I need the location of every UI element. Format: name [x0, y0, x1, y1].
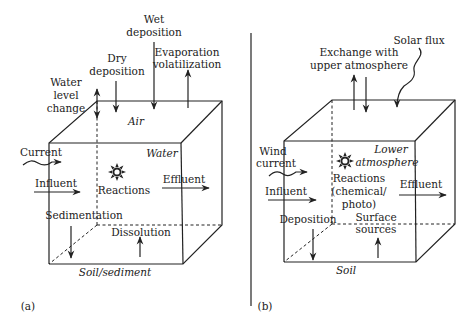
label-sedimentation: Sedimentation: [45, 209, 123, 221]
label-influent: Influent: [35, 177, 78, 189]
label-influent-b: Influent: [265, 185, 308, 197]
label-water: Water: [146, 147, 179, 159]
current-wavy-arrow: [23, 161, 61, 165]
label-water-level: Water: [50, 76, 83, 88]
sun-burst-icon: [336, 152, 354, 170]
label-current: Current: [20, 146, 63, 158]
label-volatilization: volatilization: [152, 58, 222, 70]
label-dry-deposition-2: deposition: [89, 65, 145, 77]
diagram-canvas: Wet deposition Dry deposition Evaporatio…: [0, 0, 474, 331]
label-evaporation: Evaporation: [155, 46, 220, 58]
label-wind: Wind: [259, 145, 287, 157]
label-reactions-b: Reactions: [333, 172, 385, 184]
label-lower: Lower: [373, 143, 408, 155]
label-reactions-b-3: photo): [342, 198, 376, 210]
panel-a-tag: (a): [21, 300, 35, 312]
panel-b-tag: (b): [258, 300, 273, 312]
wind-current-wavy-arrow: [269, 172, 307, 176]
label-surface-sources: sources: [356, 223, 397, 235]
solar-flux-wavy-arrow: [397, 48, 421, 107]
label-soil-sediment: Soil/sediment: [79, 266, 152, 278]
label-surface: Surface: [355, 211, 396, 223]
label-lower-atmosphere: atmosphere: [355, 156, 418, 168]
label-reactions-b-2: (chemical/: [331, 185, 387, 197]
label-wet-deposition: Wet: [144, 13, 165, 25]
sun-burst-icon: [108, 163, 126, 181]
label-wind-current: current: [256, 157, 297, 169]
label-dissolution: Dissolution: [111, 226, 171, 238]
label-dry-deposition: Dry: [107, 52, 126, 64]
label-soil: Soil: [336, 264, 356, 276]
label-effluent: Effluent: [163, 173, 206, 185]
label-effluent-b: Effluent: [400, 178, 443, 190]
label-water-level-3: change: [47, 102, 86, 114]
label-reactions: Reactions: [98, 184, 150, 196]
label-air: Air: [127, 115, 145, 127]
label-deposition: Deposition: [279, 213, 336, 225]
label-water-level-2: level: [53, 89, 79, 101]
panel-a: Wet deposition Dry deposition Evaporatio…: [20, 13, 222, 312]
label-solar-flux: Solar flux: [393, 34, 444, 46]
label-upper-atmosphere: upper atmosphere: [310, 59, 408, 71]
panel-b: Exchange with upper atmosphere Solar flu…: [256, 34, 455, 312]
label-exchange: Exchange with: [320, 46, 399, 58]
label-wet-deposition-2: deposition: [126, 26, 182, 38]
